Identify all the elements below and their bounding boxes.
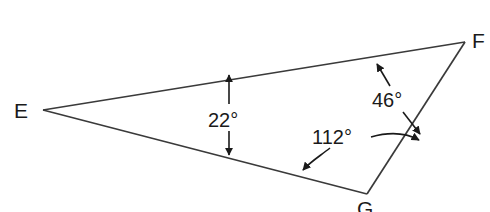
geometry-diagram: E F G 22° 46° 112° — [0, 0, 490, 212]
angle-label-e: 22° — [208, 109, 238, 131]
leader-arrow-g-right — [371, 134, 419, 140]
triangle-figure: E F G 22° 46° 112° — [0, 0, 490, 212]
side-fg — [367, 42, 465, 194]
vertex-label-g: G — [357, 197, 373, 212]
vertex-label-e: E — [14, 99, 28, 122]
triangle-outline — [43, 42, 465, 194]
vertex-label-f: F — [472, 29, 485, 52]
leader-arrow-f-upper — [377, 64, 390, 86]
side-ge — [43, 110, 367, 194]
angle-label-g: 112° — [312, 126, 352, 148]
angle-label-f: 46° — [372, 89, 402, 111]
leader-arrow-g-left — [303, 148, 330, 170]
